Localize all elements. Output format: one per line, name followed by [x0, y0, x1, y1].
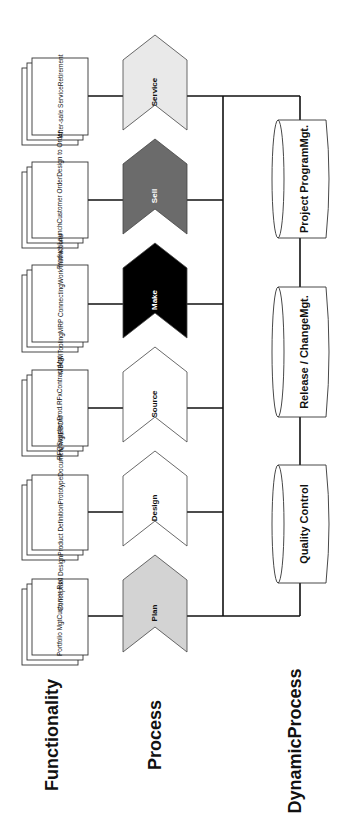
func-item: Design to Order [56, 131, 63, 177]
cylinder-label-project-program: Project Program Mgt. [284, 120, 324, 238]
functionality-service: After-sale Service Retirement [32, 58, 88, 135]
func-item: Customer Order [56, 177, 63, 224]
func-item: RFx [56, 393, 63, 405]
func-item: EBOM [56, 415, 63, 434]
row-label-process: Process [142, 690, 168, 780]
cylinder-label-release-change: Release / Change Mgt. [284, 287, 324, 417]
row-label-functionality: Functionality [39, 675, 65, 795]
functionality-plan: Portfolio Mgt Customer Rec [32, 579, 88, 655]
func-item: Document Mgt [56, 434, 63, 476]
chevron-label-source: Source [145, 374, 165, 434]
func-item: Contract Mgt [56, 356, 63, 393]
functionality-make: MBOM Tooling MRP Connecting Work Instruc… [32, 265, 88, 342]
connector-lines [88, 96, 300, 616]
row-label-dynamic-process: Dynamic Process [271, 696, 319, 786]
chevron-label-service: Service [145, 62, 165, 122]
chevron-label-plan: Plan [145, 583, 165, 643]
chevron-label-sell: Sell [145, 166, 165, 226]
cylinder-label-quality-control: Quality Control [294, 465, 314, 583]
func-item: Retirement [56, 54, 63, 86]
func-item: After-sale Service [56, 86, 63, 137]
func-item: Tooling [56, 333, 63, 354]
functionality-boxes [22, 58, 88, 665]
chevron-label-make: Make [145, 270, 165, 330]
func-item: Prototype [56, 476, 63, 504]
functionality-sell: Product Launch Customer Order Design to … [32, 162, 88, 238]
func-item: Portfolio Mgt [56, 620, 63, 657]
chevron-label-design: Design [145, 478, 165, 538]
func-item: Work Instructions [56, 234, 63, 284]
func-item: Product Definition [56, 504, 63, 555]
functionality-design: Conceptual Design Product Definition Pro… [32, 475, 88, 550]
process-chevrons [123, 35, 187, 652]
func-item: Customer Rec [56, 578, 63, 620]
func-item: MRP Connecting [56, 284, 63, 333]
